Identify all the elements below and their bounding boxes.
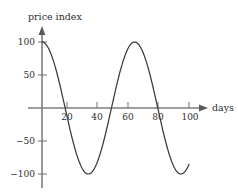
x-tick-label-60: 60 [122,112,134,122]
y-tick-label-neg50: −50 [16,136,35,146]
price-index-chart: 20 40 60 80 100 100 50 −50 −100 price in… [0,0,238,194]
x-tick-label-80: 80 [152,112,164,122]
x-tick-label-40: 40 [91,112,103,122]
x-axis-label: days [212,102,234,113]
x-tick-label-100: 100 [181,112,198,122]
arrow-up-icon [39,26,46,35]
y-axis-label: price index [28,11,82,22]
arrow-right-icon [199,105,208,112]
y-tick-label-neg100: −100 [10,169,35,179]
y-tick-label-100: 100 [18,37,35,47]
y-tick-label-50: 50 [24,70,36,80]
